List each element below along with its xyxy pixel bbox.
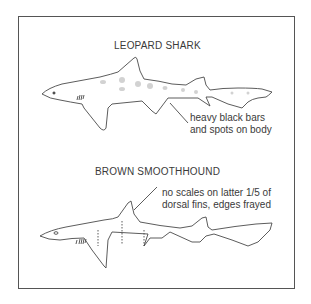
leopard-shark-spots [100,77,250,95]
brown-smoothhound-drawing [40,187,272,268]
shark-illustrations [0,0,311,304]
leopard-shark-drawing [42,57,272,130]
